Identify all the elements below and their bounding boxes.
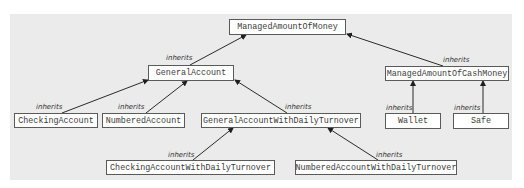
node-numbered-account-with-daily-turnover: NumberedAccountWithDailyTurnover [295, 160, 457, 175]
edge-label-inherits: inherits [454, 104, 480, 112]
edge-ga-daily-turnover-to-general-account [235, 80, 287, 113]
node-checking-account: CheckingAccount [14, 113, 98, 128]
edge-managed-cash-to-managed-amount-of-money [347, 34, 443, 66]
edge-label-inherits: inherits [168, 151, 194, 159]
edge-label-inherits: inherits [376, 151, 402, 159]
node-wallet: Wallet [385, 113, 441, 129]
edge-numbered-account-to-general-account [146, 81, 187, 113]
edge-label-inherits: inherits [166, 54, 192, 62]
node-checking-account-with-daily-turnover: CheckingAccountWithDailyTurnover [106, 160, 275, 175]
edge-general-account-to-managed-amount-of-money [190, 35, 246, 65]
edge-numbered-daily-to-ga-daily [328, 128, 378, 160]
edge-label-inherits: inherits [285, 103, 311, 111]
edge-label-inherits: inherits [443, 56, 469, 64]
edge-label-inherits: inherits [36, 103, 62, 111]
node-general-account: GeneralAccount [148, 65, 234, 81]
node-managed-amount-of-money: ManagedAmountOfMoney [229, 19, 346, 35]
node-numbered-account: NumberedAccount [102, 113, 185, 128]
node-general-account-with-daily-turnover: GeneralAccountWithDailyTurnover [201, 113, 361, 128]
edge-label-inherits: inherits [386, 104, 412, 112]
edge-checking-daily-to-ga-daily [193, 128, 233, 160]
node-managed-amount-of-cash-money: ManagedAmountOfCashMoney [385, 66, 509, 81]
edge-label-inherits: inherits [118, 103, 144, 111]
node-safe: Safe [453, 113, 509, 129]
